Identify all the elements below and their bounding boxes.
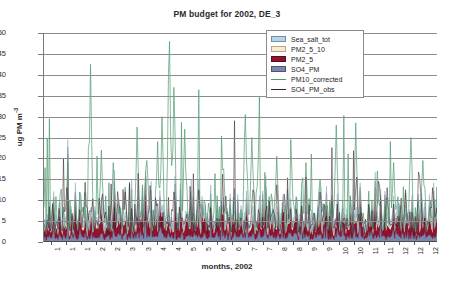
y-axis-tick-label: 25: [0, 134, 6, 142]
x-axis-tick-mark: [142, 242, 143, 245]
legend-item-pm2_5_10[interactable]: PM2_5_10: [271, 44, 359, 54]
x-axis-tick-label: 8: [281, 247, 288, 251]
x-axis-tick-mark: [217, 242, 218, 245]
legend-swatch-icon: [271, 36, 286, 42]
x-axis-tick-mark: [399, 242, 400, 245]
legend-item-sea_salt_tot[interactable]: Sea_salt_tot: [271, 34, 359, 44]
plot-area: [43, 33, 437, 242]
y-axis-tick-label: 20: [0, 154, 6, 162]
gridline: [44, 54, 437, 55]
legend-item-pm2_5[interactable]: PM2_5: [271, 54, 359, 64]
x-axis-title: months, 2002: [0, 262, 454, 271]
y-axis-tick-label: 0: [0, 238, 6, 246]
gridline: [44, 158, 437, 159]
chart-figure: PM budget for 2002, DE_3 ug PM m-3 05101…: [0, 0, 454, 282]
x-axis-tick-label: 7: [251, 247, 258, 251]
x-axis-tick-label: 11: [387, 247, 394, 254]
y-axis-title-text: ug PM m: [14, 113, 23, 146]
y-axis-tick-label: 45: [0, 50, 6, 58]
x-axis-tick-mark: [414, 242, 415, 245]
x-axis-tick-label: 1: [69, 247, 76, 251]
legend-label: SO4_PM_obs: [291, 86, 335, 93]
legend-label: Sea_salt_tot: [291, 36, 330, 43]
x-axis-tick-label: 3: [129, 247, 136, 251]
legend-label: SO4_PM: [291, 66, 319, 73]
y-axis-tick-label: 15: [0, 175, 6, 183]
x-axis-tick-mark: [369, 242, 370, 245]
legend-label: PM10_corrected: [291, 76, 342, 83]
y-axis-tick-label: 30: [0, 113, 6, 121]
x-axis-tick-mark: [293, 242, 294, 245]
gridline: [44, 138, 437, 139]
y-axis-tick-label: 35: [0, 92, 6, 100]
x-axis-tick-label: 9: [311, 247, 318, 251]
chart-legend: Sea_salt_totPM2_5_10PM2_5SO4_PMPM10_corr…: [266, 30, 364, 98]
page-title: PM budget for 2002, DE_3: [0, 9, 454, 19]
gridline: [44, 179, 437, 180]
x-axis-tick-mark: [263, 242, 264, 245]
legend-line-icon: [271, 86, 286, 92]
legend-label: PM2_5: [291, 56, 313, 63]
x-axis-tick-label: 5: [205, 247, 212, 251]
x-axis-tick-label: 1: [84, 247, 91, 251]
x-axis-tick-label: 9: [326, 247, 333, 251]
x-axis-tick-label: 6: [235, 247, 242, 251]
x-axis-tick-mark: [172, 242, 173, 245]
x-axis-tick-label: 12: [432, 247, 439, 255]
x-axis-line: [44, 241, 437, 242]
x-axis-tick-mark: [66, 242, 67, 245]
x-axis-tick-label: 11: [372, 247, 379, 254]
x-axis-tick-mark: [202, 242, 203, 245]
x-axis-tick-mark: [111, 242, 112, 245]
x-axis-tick-label: 10: [342, 247, 349, 255]
x-axis-tick-label: 8: [296, 247, 303, 251]
legend-item-so4_pm[interactable]: SO4_PM: [271, 64, 359, 74]
gridline: [44, 96, 437, 97]
x-axis-tick-label: 4: [175, 247, 182, 251]
x-axis-tick-mark: [323, 242, 324, 245]
x-axis-tick-label: 7: [266, 247, 273, 251]
x-axis-tick-mark: [232, 242, 233, 245]
x-axis-tick-mark: [126, 242, 127, 245]
x-axis-tick-mark: [187, 242, 188, 245]
legend-label: PM2_5_10: [291, 46, 325, 53]
x-axis-tick-mark: [278, 242, 279, 245]
legend-swatch-icon: [271, 46, 286, 52]
y-axis-title: ug PM m-3: [11, 57, 25, 197]
x-axis-tick-label: 4: [160, 247, 167, 251]
x-axis-tick-label: 2: [114, 247, 121, 251]
x-axis-tick-mark: [354, 242, 355, 245]
gridline: [44, 75, 437, 76]
x-axis-tick-label: 5: [190, 247, 197, 251]
x-axis-tick-mark: [308, 242, 309, 245]
x-axis-tick-mark: [339, 242, 340, 245]
y-axis-title-exponent: -3: [13, 108, 19, 113]
x-axis-tick-mark: [51, 242, 52, 245]
y-axis-tick-label: 5: [0, 217, 6, 225]
legend-item-so4_pm_obs[interactable]: SO4_PM_obs: [271, 84, 359, 94]
legend-line-icon: [271, 76, 286, 82]
x-axis-tick-label: 3: [145, 247, 152, 251]
y-axis-tick-label: 50: [0, 29, 6, 37]
y-axis-tick-label: 10: [0, 196, 6, 204]
legend-swatch-icon: [271, 66, 286, 72]
x-axis-tick-mark: [429, 242, 430, 245]
x-axis-tick-label: 10: [357, 247, 364, 255]
x-axis-tick-label: 2: [99, 247, 106, 251]
x-axis-tick-label: 12: [417, 247, 424, 255]
x-axis-tick-mark: [157, 242, 158, 245]
y-axis-tick-label: 40: [0, 71, 6, 79]
x-axis-tick-mark: [248, 242, 249, 245]
gridline: [44, 200, 437, 201]
x-axis-tick-mark: [96, 242, 97, 245]
y-axis-tick-mark: [38, 242, 43, 243]
legend-item-pm10_corrected[interactable]: PM10_corrected: [271, 74, 359, 84]
gridline: [44, 117, 437, 118]
x-axis-tick-mark: [384, 242, 385, 245]
plot-inner: [44, 33, 437, 242]
x-axis-tick-label: 1: [54, 247, 61, 251]
legend-swatch-icon: [271, 56, 286, 62]
gridline: [44, 33, 437, 34]
x-axis-tick-mark: [81, 242, 82, 245]
x-axis-tick-label: 12: [402, 247, 409, 255]
